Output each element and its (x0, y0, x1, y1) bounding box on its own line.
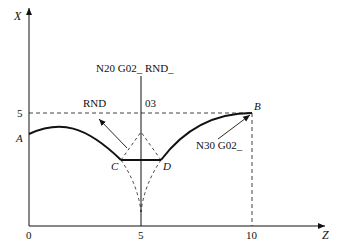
diagram-canvas (0, 0, 338, 249)
point-a-label: A (16, 133, 23, 144)
construction-dashed-lower-right (141, 160, 161, 212)
construction-dashed-lower-left (121, 160, 141, 212)
point-c-label: C (111, 161, 118, 172)
y-tick-5: 5 (17, 108, 23, 119)
horizontal-axis-label: Z (322, 229, 329, 241)
rnd-annotation: RND (83, 98, 106, 109)
contour-arc-d-b (161, 113, 252, 160)
n30-leader-arrow (218, 115, 250, 139)
o3-annotation: 03 (145, 98, 156, 109)
n30-annotation: N30 G02_ (196, 140, 242, 151)
contour-arc-a-c (29, 127, 121, 160)
x-tick-10: 10 (246, 230, 257, 241)
x-tick-5: 5 (138, 230, 144, 241)
point-b-label: B (254, 101, 261, 112)
n20-annotation: N20 G02_ RND_ (96, 63, 174, 74)
origin-label: 0 (26, 230, 32, 241)
point-d-label: D (163, 161, 171, 172)
vertical-axis-label: X (14, 10, 21, 22)
